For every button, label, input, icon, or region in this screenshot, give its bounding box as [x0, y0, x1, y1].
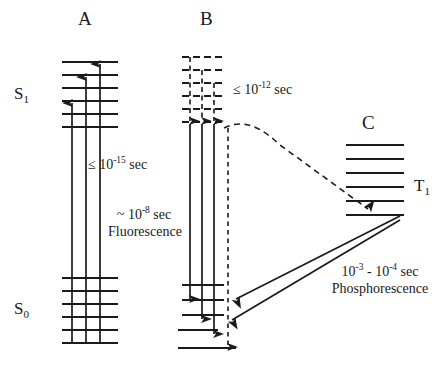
absorption-relation: ≤: [88, 157, 96, 172]
internal-conversion-time-label: ≤ 10-12 sec: [233, 80, 292, 98]
column-letter-b: B: [200, 8, 213, 30]
phos-base1: 10: [342, 264, 356, 279]
phosphorescence-time-label: 10-3 - 10-4 sec: [318, 262, 442, 280]
phos-exponent2: -4: [389, 262, 397, 272]
column-letter-a: A: [78, 8, 92, 30]
fluorescence-time-label: ~ 10-8 sec: [108, 205, 180, 223]
internal-conversion-arrows: [190, 57, 214, 121]
state-label-s1: S1: [14, 84, 29, 105]
ic-base: 10: [244, 82, 258, 97]
fluorescence-annotation: ~ 10-8 sec Fluorescence: [108, 205, 180, 241]
phos-exponent1: -3: [356, 262, 364, 272]
fluorescence-process-label: Fluorescence: [108, 223, 180, 241]
s0-levels-a: [62, 278, 118, 343]
ic-unit: sec: [274, 82, 292, 97]
phos-base2: 10: [375, 264, 389, 279]
phos-dash: -: [367, 264, 372, 279]
fluor-base: 10: [128, 207, 142, 222]
s1-levels-a: [62, 62, 118, 127]
s0-subscript: 0: [23, 308, 29, 320]
jablonski-diagram-figure: A B C S1 S0 T1 ≤ 10-15 sec ≤ 10-12 sec ~…: [0, 0, 444, 372]
t1-subscript: 1: [424, 185, 430, 197]
s1-subscript: 1: [23, 93, 29, 105]
absorption-base: 10: [99, 157, 113, 172]
absorption-unit: sec: [129, 157, 147, 172]
absorption-arrows: [72, 64, 100, 343]
absorption-time-label: ≤ 10-15 sec: [88, 155, 147, 173]
t1-levels-c: [346, 145, 404, 215]
fluor-unit: sec: [153, 207, 171, 222]
phosphorescence-annotation: 10-3 - 10-4 sec Phosphorescence: [318, 262, 442, 298]
column-c-group: [346, 145, 404, 215]
fluor-exponent: -8: [142, 205, 150, 215]
intersystem-crossing-arrow: [224, 124, 368, 209]
phosphorescence-process-label: Phosphorescence: [318, 280, 442, 298]
state-label-s0: S0: [14, 299, 29, 320]
absorption-exponent: -15: [113, 155, 126, 165]
column-letter-c: C: [362, 112, 375, 134]
ic-relation: ≤: [233, 82, 241, 97]
state-label-t1: T1: [414, 176, 430, 197]
column-a-group: [62, 62, 118, 343]
column-b-group: [178, 57, 236, 348]
phos-unit: sec: [401, 264, 419, 279]
t1-symbol: T: [414, 176, 424, 195]
ic-exponent: -12: [258, 80, 271, 90]
fluorescence-arrows: [190, 124, 214, 334]
fluor-relation: ~: [117, 207, 125, 222]
diagram-canvas: [0, 0, 444, 372]
